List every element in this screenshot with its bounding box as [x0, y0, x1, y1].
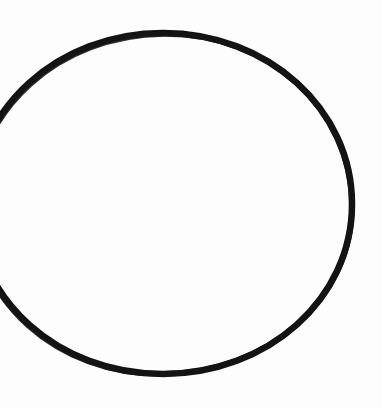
ink-drawing-layer — [0, 0, 382, 408]
drawing-canvas — [0, 0, 382, 408]
circle-outline-wobble-overlay — [0, 34, 352, 374]
circle-outline-svg — [0, 0, 382, 408]
